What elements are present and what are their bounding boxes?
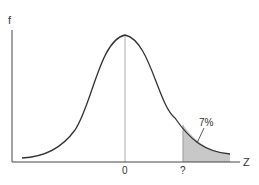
tail-area-label: 7%	[199, 118, 213, 128]
shaded-tail-area	[183, 125, 230, 162]
normal-curve-diagram	[0, 0, 259, 185]
y-axis-label: f	[8, 15, 11, 26]
x-axis-label: Z	[243, 157, 250, 168]
tick-label-mean: 0	[122, 166, 128, 176]
annotation-leader	[197, 128, 204, 143]
tick-label-cutoff: ?	[180, 166, 186, 176]
